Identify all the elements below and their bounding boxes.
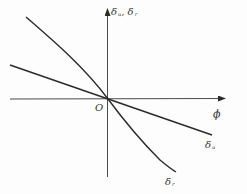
x-axis-label: ϕ: [213, 109, 221, 120]
delta-u-label: δu: [205, 140, 215, 150]
x-axis: [10, 99, 225, 100]
y-axis-label: δu, δr: [111, 7, 137, 17]
delta-r-label: δr: [165, 177, 174, 187]
delta-r-label-sub: r: [172, 181, 174, 187]
diagram-figure: δu, δr ϕ O δu δr: [0, 0, 247, 194]
y-label-delta: δ: [111, 6, 117, 17]
delta-u-label-sub: u: [212, 144, 215, 150]
delta-u-label-main: δ: [205, 139, 211, 150]
y-label-sub-r: r: [135, 11, 137, 17]
delta-u-line: [10, 65, 212, 135]
delta-r-label-main: δ: [165, 176, 171, 187]
origin-label: O: [95, 103, 103, 113]
y-label-separator: , δ: [121, 6, 133, 17]
delta-r-curve: [26, 17, 176, 172]
diagram-canvas: [0, 0, 247, 194]
